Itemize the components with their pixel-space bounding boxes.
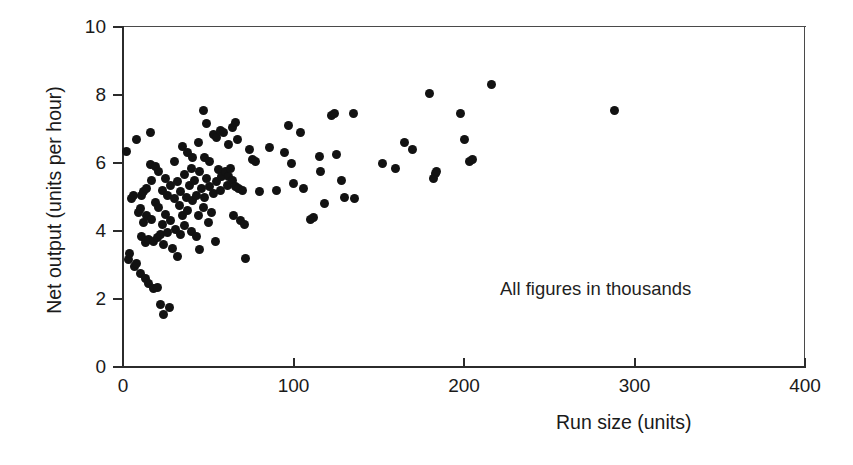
y-axis-tick — [113, 94, 122, 96]
x-axis-tick-label: 400 — [765, 376, 845, 395]
x-axis-tick — [122, 358, 124, 367]
x-axis-tick — [293, 358, 295, 367]
scatter-plot-figure: 0246810 0100200300400 Net output (units … — [0, 0, 853, 465]
y-axis-tick — [113, 298, 122, 300]
y-axis-tick — [113, 366, 122, 368]
x-axis-tick — [634, 358, 636, 367]
x-axis-tick-label: 0 — [83, 376, 163, 395]
chart-annotation: All figures in thousands — [500, 279, 691, 299]
x-axis-tick-label: 100 — [254, 376, 334, 395]
x-axis-tick — [804, 358, 806, 367]
axis-frame-right — [804, 26, 805, 368]
x-axis-title: Run size (units) — [556, 412, 691, 432]
y-axis-tick-label: 6 — [74, 153, 106, 172]
x-axis-tick — [463, 358, 465, 367]
y-axis-tick-label: 10 — [74, 17, 106, 36]
y-axis-tick-label: 8 — [74, 85, 106, 104]
axis-frame-top — [122, 26, 806, 27]
y-axis-tick — [113, 230, 122, 232]
y-axis-tick-label: 2 — [74, 289, 106, 308]
y-axis-tick-label: 4 — [74, 221, 106, 240]
x-axis-tick-label: 300 — [595, 376, 675, 395]
y-axis-tick — [113, 162, 122, 164]
plot-area — [122, 27, 805, 367]
axis-frame-left — [122, 26, 124, 368]
y-axis-tick — [113, 26, 122, 28]
x-axis-tick-label: 200 — [424, 376, 504, 395]
y-axis-tick-label: 0 — [74, 357, 106, 376]
y-axis-title: Net output (units per hour) — [44, 50, 64, 350]
